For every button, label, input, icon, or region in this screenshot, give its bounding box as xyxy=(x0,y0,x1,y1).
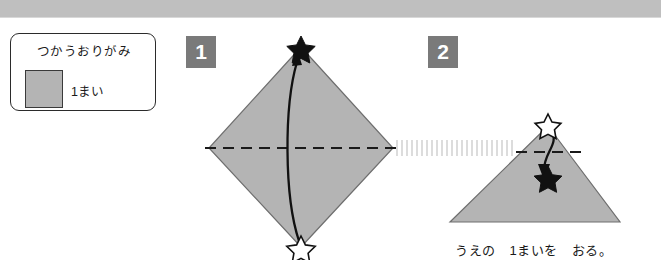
step-badge-2: 2 xyxy=(428,36,458,68)
step-1-figure xyxy=(196,36,406,260)
legend-title: つかうおりがみ xyxy=(11,41,157,60)
origami-paper-swatch xyxy=(25,70,63,108)
paper-triangle xyxy=(450,126,620,222)
origami-instruction-page: つかうおりがみ 1まい 1 2 xyxy=(0,0,661,266)
materials-legend-box: つかうおりがみ 1まい xyxy=(10,33,156,111)
legend-count-label: 1まい xyxy=(71,81,104,100)
step-2-diagram xyxy=(420,104,650,230)
page-header-band xyxy=(0,0,661,18)
paper-diamond xyxy=(209,47,393,247)
hollow-star-marker xyxy=(287,236,315,260)
step-2-figure xyxy=(420,104,650,230)
step-2-caption: うえの 1まいを おる。 xyxy=(455,240,612,259)
step-1-diagram xyxy=(196,36,406,260)
